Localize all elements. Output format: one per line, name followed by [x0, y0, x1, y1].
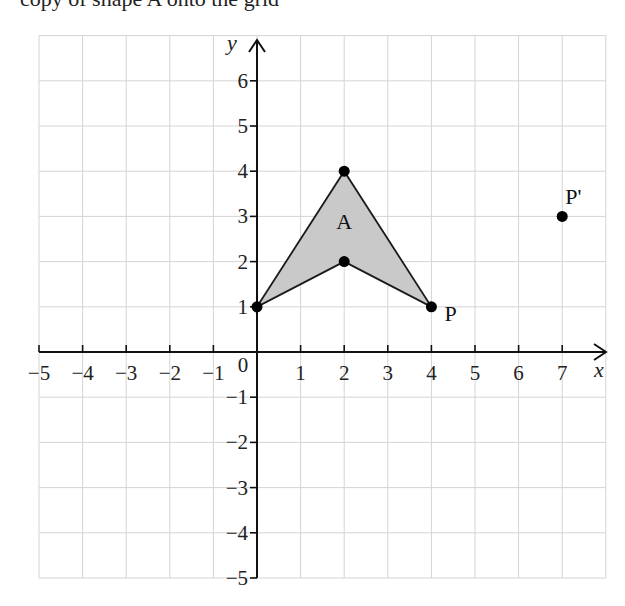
y-axis-label: y [225, 30, 237, 55]
x-tick-label: 4 [426, 361, 437, 385]
grid-lines [39, 36, 606, 578]
point-label: P [444, 301, 456, 326]
x-tick-label: 3 [383, 361, 394, 385]
y-tick-label: −3 [226, 476, 248, 500]
x-tick-label: −5 [28, 361, 50, 385]
vertex-point [339, 166, 350, 177]
x-tick-label: 6 [513, 361, 524, 385]
axes: xy [39, 30, 606, 578]
shape-label: A [336, 209, 352, 234]
coordinate-grid: A xy −5−4−3−2−101234567−5−4−3−2−1123456 … [0, 0, 625, 606]
point-label: P' [565, 184, 581, 209]
x-tick-label: 1 [295, 361, 306, 385]
y-tick-label: 6 [238, 69, 249, 93]
x-tick-label: −4 [71, 361, 94, 385]
x-tick-label: 5 [470, 361, 481, 385]
vertex-point [252, 301, 263, 312]
point-p [426, 301, 437, 312]
y-tick-label: 5 [238, 114, 249, 138]
x-axis-label: x [593, 357, 604, 382]
x-tick-label: −2 [159, 361, 181, 385]
x-tick-label: 2 [339, 361, 350, 385]
y-tick-label: −2 [226, 430, 248, 454]
tick-labels: −5−4−3−2−101234567−5−4−3−2−1123456 [28, 69, 568, 590]
y-tick-label: 3 [238, 204, 249, 228]
y-tick-label: 4 [238, 159, 249, 183]
y-tick-label: 1 [238, 295, 249, 319]
x-tick-label: −3 [115, 361, 137, 385]
y-tick-label: 2 [238, 250, 249, 274]
x-tick-label: 7 [557, 361, 568, 385]
y-tick-label: −5 [226, 566, 248, 590]
x-tick-label: −1 [202, 361, 224, 385]
point-p-prime [557, 211, 568, 222]
x-tick-label: 0 [238, 353, 249, 377]
vertex-point [339, 256, 350, 267]
y-tick-label: −4 [226, 521, 249, 545]
y-tick-label: −1 [226, 385, 248, 409]
